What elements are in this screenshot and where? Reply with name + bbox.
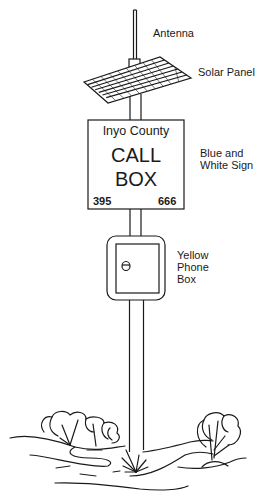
sign-box-text: BOX [88, 168, 184, 190]
antenna [129, 10, 140, 67]
label-antenna: Antenna [153, 27, 194, 39]
solar-panel [84, 57, 191, 103]
phone-box [107, 236, 165, 300]
ground-shrubs [10, 411, 246, 490]
label-phone-box-line1: Yellow [177, 249, 208, 261]
sign-route-number: 395 [93, 195, 111, 207]
label-sign-line1: Blue and [200, 147, 243, 159]
label-sign-line2: White Sign [200, 159, 253, 171]
sign-call-text: CALL [88, 144, 184, 166]
sign-box-number: 666 [158, 195, 176, 207]
sign-county-name: Inyo County [88, 124, 184, 138]
label-phone-box-line2: Phone [177, 261, 209, 273]
label-solar-panel: Solar Panel [198, 66, 255, 78]
label-phone-box-line3: Box [177, 273, 196, 285]
